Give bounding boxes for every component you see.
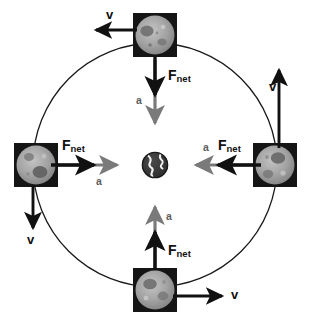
force-label-left-sub: net xyxy=(71,143,85,154)
force-label-right: Fnet xyxy=(218,138,241,152)
force-label-right-sub: net xyxy=(227,143,241,154)
diagram-canvas: v Fnet a v Fnet a v Fnet a v Fnet a xyxy=(0,0,310,324)
velocity-label-bottom: v xyxy=(231,288,238,301)
moon-top xyxy=(133,13,177,57)
velocity-label-top: v xyxy=(106,8,113,21)
force-label-bottom: Fnet xyxy=(168,243,191,257)
force-label-top-sub: net xyxy=(177,73,191,84)
earth xyxy=(142,152,168,178)
force-label-top: Fnet xyxy=(168,68,191,82)
force-label-left-main: F xyxy=(62,137,71,153)
vector-diagram-svg xyxy=(0,0,310,324)
force-label-right-main: F xyxy=(218,137,227,153)
acceleration-label-right: a xyxy=(203,142,209,153)
acceleration-label-top: a xyxy=(136,95,142,106)
acceleration-label-bottom: a xyxy=(166,211,172,222)
velocity-label-left: v xyxy=(27,233,34,246)
velocity-label-right: v xyxy=(269,80,276,93)
force-label-left: Fnet xyxy=(62,138,85,152)
moon-bottom xyxy=(133,268,177,312)
force-label-top-main: F xyxy=(168,67,177,83)
force-label-bottom-main: F xyxy=(168,242,177,258)
acceleration-label-left: a xyxy=(96,176,102,187)
force-label-bottom-sub: net xyxy=(177,248,191,259)
